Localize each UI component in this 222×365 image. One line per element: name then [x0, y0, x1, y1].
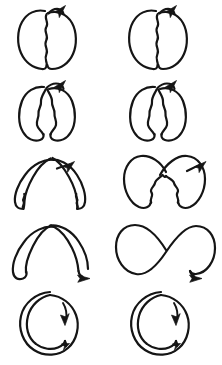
right-lobe-path — [158, 12, 186, 69]
arrowhead-inner-down — [172, 314, 181, 326]
stroke-panel-r3c2: crossed-lobes-bowtie — [111, 150, 222, 216]
left-lobe-path — [19, 87, 44, 141]
left-arch-inner-path — [24, 159, 51, 209]
left-arch-inner-path — [26, 226, 51, 273]
centre-crossing-path — [163, 175, 167, 177]
right-wavy-inner-path — [47, 90, 56, 135]
right-wavy-inner-path — [166, 176, 178, 203]
stroke-panel-r5c1: spiral-circle — [0, 286, 111, 365]
inner-spiral-path — [27, 295, 65, 349]
stroke-panel-grid: double-lobe-bean-closed double-lobe-bean… — [0, 0, 222, 365]
inner-spiral-path — [138, 295, 176, 349]
left-lobe-path — [18, 10, 46, 69]
stroke-panel-r2c2: double-lobe-parted — [111, 78, 222, 150]
stroke-panel-r5c2: spiral-circle — [111, 286, 222, 365]
outer-circle-path — [131, 292, 189, 355]
stroke-panel-r2c1: double-lobe-parted — [0, 78, 111, 150]
outer-circle-path — [20, 292, 78, 355]
stroke-panel-r3c1: wide-arch-crossed — [0, 150, 111, 216]
figure-root: double-lobe-bean-closed double-lobe-bean… — [0, 0, 222, 365]
right-lobe-path — [49, 88, 75, 140]
right-wavy-bottom-path — [76, 194, 78, 209]
left-lobe-path — [130, 87, 155, 141]
stroke-panel-r4c1: open-arch-crossed — [0, 216, 111, 286]
right-lobe-path — [160, 156, 205, 208]
stroke-panel-r1c1: double-lobe-bean-closed — [0, 0, 111, 78]
right-arch-inner-path — [54, 227, 79, 271]
left-wavy-inner-path — [148, 90, 157, 135]
stroke-panel-r4c2: figure-eight — [111, 216, 222, 286]
right-arch-outer-path — [50, 225, 88, 269]
right-wavy-inner-path — [158, 90, 167, 135]
left-arch-outer-path — [13, 227, 55, 280]
left-lobe-path — [129, 10, 157, 69]
left-wavy-inner-path — [151, 176, 162, 203]
right-lobe-path — [160, 88, 186, 140]
wavy-seam-path — [156, 14, 158, 66]
right-lobe-path — [47, 12, 75, 69]
wavy-seam-path — [45, 14, 47, 66]
left-wavy-inner-path — [37, 90, 46, 135]
left-arch-outer-path — [15, 160, 54, 209]
figure-eight-path — [116, 225, 215, 274]
arrowhead-down-right — [78, 275, 91, 282]
arrowhead-inner-down — [61, 314, 70, 326]
arrowhead-down-right — [190, 275, 203, 282]
stroke-panel-r1c2: double-lobe-bean-closed — [111, 0, 222, 78]
left-lobe-path — [124, 156, 166, 208]
